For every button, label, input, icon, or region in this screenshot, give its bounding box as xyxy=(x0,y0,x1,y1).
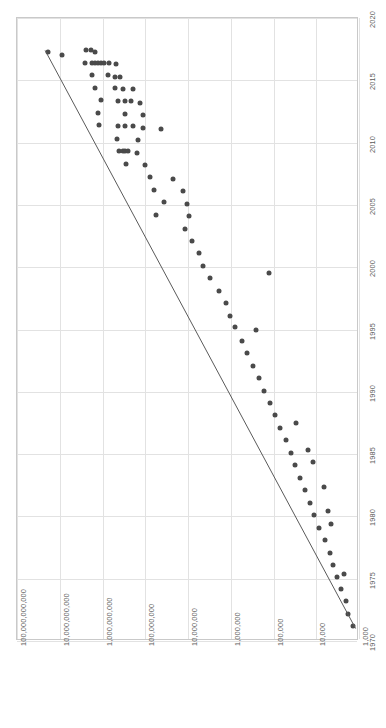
data-point xyxy=(283,438,288,443)
data-point xyxy=(182,226,187,231)
x-tick-label: 2005 xyxy=(368,198,377,215)
gridline-value-8 xyxy=(17,18,18,639)
gridline-year-8 xyxy=(17,143,357,144)
data-point xyxy=(131,87,136,92)
data-point xyxy=(208,276,213,281)
data-point xyxy=(112,85,117,90)
gridline-year-5 xyxy=(17,330,357,331)
gridline-year-4 xyxy=(17,392,357,393)
data-point xyxy=(335,575,340,580)
chart-page: 1,00010,000100,0001,000,00010,000,000100… xyxy=(0,0,386,728)
data-point xyxy=(131,124,136,129)
data-point xyxy=(200,263,205,268)
gridline-value-0 xyxy=(359,18,360,639)
data-point xyxy=(141,125,146,130)
data-point xyxy=(135,138,140,143)
data-point xyxy=(171,176,176,181)
gridline-year-2 xyxy=(17,516,357,517)
data-point xyxy=(162,200,167,205)
data-point xyxy=(273,413,278,418)
data-point xyxy=(326,509,331,514)
data-point xyxy=(266,271,271,276)
data-point xyxy=(327,550,332,555)
y-tick-label: 10,000 xyxy=(318,623,327,646)
y-tick-label: 1,000,000,000 xyxy=(105,597,114,646)
gridline-year-10 xyxy=(17,18,357,19)
data-point xyxy=(261,388,266,393)
data-point xyxy=(98,98,103,103)
data-point xyxy=(278,425,283,430)
gridline-year-1 xyxy=(17,579,357,580)
gridline-value-5 xyxy=(145,18,146,639)
data-point xyxy=(115,124,120,129)
data-point xyxy=(122,124,127,129)
x-tick-label: 2000 xyxy=(368,260,377,277)
gridline-value-6 xyxy=(103,18,104,639)
x-tick-label: 2015 xyxy=(368,73,377,90)
y-tick-label: 100,000,000,000 xyxy=(19,589,28,646)
x-tick-label: 1985 xyxy=(368,447,377,464)
y-tick-label: 10,000,000 xyxy=(190,608,199,646)
data-point xyxy=(331,562,336,567)
data-point xyxy=(45,49,50,54)
data-point xyxy=(310,459,315,464)
data-point xyxy=(114,62,119,67)
data-point xyxy=(197,251,202,256)
data-point xyxy=(97,123,102,128)
data-point xyxy=(138,100,143,105)
data-point xyxy=(341,571,346,576)
data-point xyxy=(143,163,148,168)
y-tick-label: 10,000,000,000 xyxy=(62,593,71,646)
data-point xyxy=(329,521,334,526)
data-point xyxy=(92,85,97,90)
data-point xyxy=(254,327,259,332)
x-tick-label: 1990 xyxy=(368,385,377,402)
data-point xyxy=(298,475,303,480)
data-point xyxy=(288,450,293,455)
data-point xyxy=(122,99,127,104)
data-point xyxy=(134,150,139,155)
data-point xyxy=(114,136,119,141)
x-tick-label: 2010 xyxy=(368,136,377,153)
x-tick-label: 2020 xyxy=(368,11,377,28)
gridline-value-1 xyxy=(316,18,317,639)
data-point xyxy=(152,187,157,192)
data-point xyxy=(59,53,64,58)
data-point xyxy=(95,110,100,115)
data-point xyxy=(129,99,134,104)
data-point xyxy=(117,74,122,79)
data-point xyxy=(181,189,186,194)
data-point xyxy=(346,611,351,616)
data-point xyxy=(350,624,355,629)
data-point xyxy=(239,338,244,343)
data-point xyxy=(147,175,152,180)
data-point xyxy=(344,599,349,604)
y-tick-label: 100,000,000 xyxy=(147,604,156,646)
gridline-value-4 xyxy=(188,18,189,639)
data-point xyxy=(90,73,95,78)
data-point xyxy=(123,111,128,116)
gridline-value-3 xyxy=(231,18,232,639)
gridline-year-3 xyxy=(17,454,357,455)
data-point xyxy=(186,214,191,219)
data-point xyxy=(223,301,228,306)
data-point xyxy=(159,126,164,131)
gridline-year-6 xyxy=(17,267,357,268)
data-point xyxy=(256,376,261,381)
data-point xyxy=(124,161,129,166)
x-tick-label: 1995 xyxy=(368,323,377,340)
data-point xyxy=(338,586,343,591)
x-tick-label: 1975 xyxy=(368,572,377,589)
data-point xyxy=(312,513,317,518)
x-tick-label: 1970 xyxy=(368,634,377,651)
data-point xyxy=(305,448,310,453)
data-point xyxy=(185,201,190,206)
trendline-segment xyxy=(45,50,356,628)
y-tick-label: 1,000,000 xyxy=(233,612,242,646)
data-point xyxy=(308,500,313,505)
gridline-value-2 xyxy=(274,18,275,639)
data-point xyxy=(317,525,322,530)
data-point xyxy=(190,239,195,244)
data-point xyxy=(126,149,131,154)
data-point xyxy=(323,538,328,543)
